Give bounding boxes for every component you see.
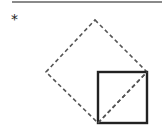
geometry-figure xyxy=(0,0,163,134)
